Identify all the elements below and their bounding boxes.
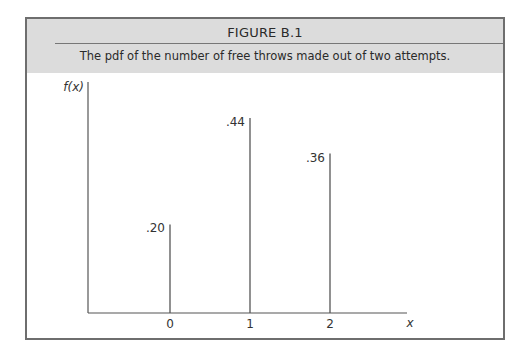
- x-tick-label-0: 0: [166, 317, 174, 331]
- x-axis-label: x: [405, 316, 414, 330]
- value-label-0: .20: [146, 221, 165, 235]
- x-tick-label-1: 1: [246, 317, 254, 331]
- x-tick-label-2: 2: [326, 317, 334, 331]
- pmf-chart: f(x) x .200.441.362: [0, 0, 530, 361]
- spike-group: .200.441.362: [146, 115, 334, 331]
- value-label-1: .44: [226, 115, 245, 129]
- value-label-2: .36: [306, 151, 325, 165]
- y-axis-label: f(x): [63, 80, 84, 94]
